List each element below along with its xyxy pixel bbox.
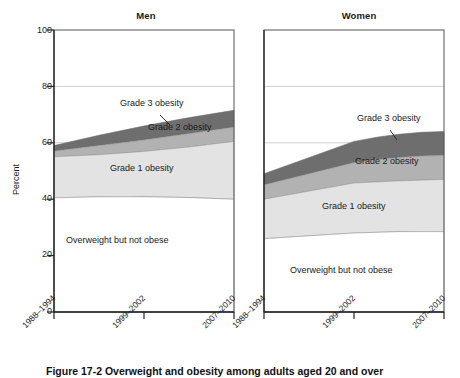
women-label-grade2: Grade 2 obesity <box>355 156 419 166</box>
men-label-grade2: Grade 2 obesity <box>148 122 212 132</box>
men-plot <box>47 30 234 319</box>
women-label-overweight: Overweight but not obese <box>290 265 393 275</box>
women-label-grade1: Grade 1 obesity <box>322 201 386 211</box>
men-label-overweight: Overweight but not obese <box>66 235 169 245</box>
men-label-grade1: Grade 1 obesity <box>110 163 174 173</box>
figure-caption: Figure 17-2 Overweight and obesity among… <box>46 365 446 377</box>
women-plot <box>264 30 444 319</box>
women-label-grade3: Grade 3 obesity <box>357 113 421 123</box>
men-label-grade3: Grade 3 obesity <box>120 98 184 108</box>
figure-container: Men Percent 100 80 60 40 20 0 <box>0 0 460 378</box>
men-band-overweight <box>54 197 234 312</box>
panel-title-women: Women <box>330 10 388 21</box>
